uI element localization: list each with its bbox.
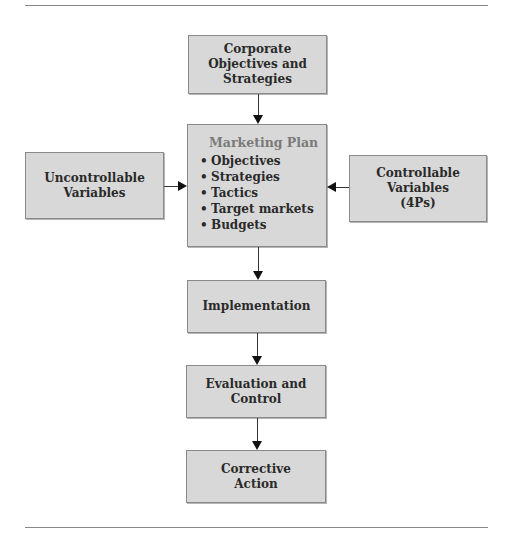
marketing-plan-list: •Objectives •Strategies •Tactics •Target…: [200, 153, 314, 233]
arrow-down-icon: [252, 356, 262, 365]
arrow-controllable-to-plan-line: [334, 187, 349, 188]
arrow-down-icon: [253, 271, 263, 280]
corporate-objectives-label: Corporate Objectives and Strategies: [208, 42, 307, 87]
bullet-icon: •: [200, 153, 211, 169]
evaluation-control-label: Evaluation and Control: [206, 377, 307, 407]
arrow-down-icon: [253, 115, 263, 124]
list-item-label: Target markets: [211, 202, 314, 216]
arrow-down-icon: [252, 441, 262, 450]
marketing-plan-box: Marketing Plan •Objectives •Strategies •…: [187, 124, 327, 247]
corporate-objectives-box: Corporate Objectives and Strategies: [188, 35, 327, 94]
list-item: •Tactics: [200, 185, 314, 201]
corrective-action-box: Corrective Action: [186, 450, 326, 503]
bullet-icon: •: [200, 185, 211, 201]
arrow-corporate-to-plan-line: [258, 94, 259, 116]
bullet-icon: •: [200, 217, 211, 233]
implementation-box: Implementation: [187, 280, 326, 333]
controllable-variables-box: Controllable Variables (4Ps): [349, 155, 487, 222]
list-item: •Strategies: [200, 169, 314, 185]
uncontrollable-variables-box: Uncontrollable Variables: [25, 152, 164, 219]
implementation-label: Implementation: [202, 299, 310, 314]
list-item: •Objectives: [200, 153, 314, 169]
bullet-icon: •: [200, 169, 211, 185]
list-item: •Target markets: [200, 201, 314, 217]
arrow-plan-to-implementation-line: [258, 247, 259, 272]
list-item-label: Objectives: [211, 154, 281, 168]
list-item-label: Tactics: [211, 186, 258, 200]
arrow-evaluation-to-corrective-line: [257, 418, 258, 442]
evaluation-control-box: Evaluation and Control: [186, 365, 326, 418]
marketing-plan-title: Marketing Plan: [209, 135, 318, 150]
corrective-action-label: Corrective Action: [221, 462, 291, 492]
arrow-implementation-to-evaluation-line: [257, 333, 258, 357]
controllable-variables-label: Controllable Variables (4Ps): [376, 166, 460, 211]
bullet-icon: •: [200, 201, 211, 217]
arrow-right-icon: [178, 181, 187, 191]
top-rule: [25, 5, 488, 6]
bottom-rule: [25, 527, 488, 528]
list-item: •Budgets: [200, 217, 314, 233]
uncontrollable-variables-label: Uncontrollable Variables: [44, 171, 145, 201]
arrow-left-icon: [327, 182, 336, 192]
list-item-label: Budgets: [211, 218, 267, 232]
list-item-label: Strategies: [211, 170, 280, 184]
